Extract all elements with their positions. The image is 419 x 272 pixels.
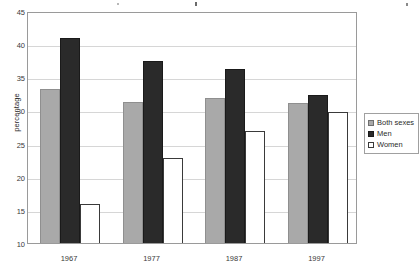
legend-swatch-icon bbox=[368, 131, 374, 137]
bar bbox=[288, 103, 308, 243]
y-axis-tick-label: 20 bbox=[3, 173, 25, 182]
x-axis-tick-label: 1997 bbox=[308, 254, 325, 263]
legend-item-label: Women bbox=[377, 140, 403, 149]
y-axis-tick-label: 25 bbox=[3, 140, 25, 149]
legend-swatch-icon bbox=[368, 142, 374, 148]
bar bbox=[143, 61, 163, 243]
bar bbox=[60, 38, 80, 243]
legend-item[interactable]: Women bbox=[368, 139, 414, 150]
legend-item-label: Men bbox=[377, 129, 392, 138]
y-axis-tick-label: 40 bbox=[3, 41, 25, 50]
legend-swatch-icon bbox=[368, 120, 374, 126]
y-axis-tick-label: 35 bbox=[3, 74, 25, 83]
y-axis-tick-label: 10 bbox=[3, 240, 25, 249]
x-axis-tick-label: 1967 bbox=[61, 254, 78, 263]
bar bbox=[245, 131, 265, 243]
plot-area bbox=[27, 12, 357, 244]
bar bbox=[308, 95, 328, 243]
legend-item[interactable]: Men bbox=[368, 128, 414, 139]
y-axis-tick-label: 30 bbox=[3, 107, 25, 116]
scan-speck bbox=[195, 2, 197, 6]
scan-speck bbox=[406, 3, 408, 6]
legend-item[interactable]: Both sexes bbox=[368, 117, 414, 128]
bar bbox=[40, 89, 60, 243]
y-axis-tick-label: 15 bbox=[3, 206, 25, 215]
bar bbox=[80, 204, 100, 243]
bar bbox=[163, 158, 183, 244]
x-axis-tick-label: 1977 bbox=[143, 254, 160, 263]
x-axis-tick-label: 1987 bbox=[226, 254, 243, 263]
bar bbox=[123, 102, 143, 243]
y-axis-tick-labels: 1015202530354045 bbox=[0, 0, 25, 272]
bar bbox=[205, 98, 225, 243]
bar bbox=[225, 69, 245, 243]
bar bbox=[328, 112, 348, 243]
scan-speck bbox=[117, 3, 119, 5]
chart-legend: Both sexesMenWomen bbox=[364, 113, 419, 154]
y-axis-tick-label: 45 bbox=[3, 8, 25, 17]
legend-item-label: Both sexes bbox=[377, 118, 414, 127]
